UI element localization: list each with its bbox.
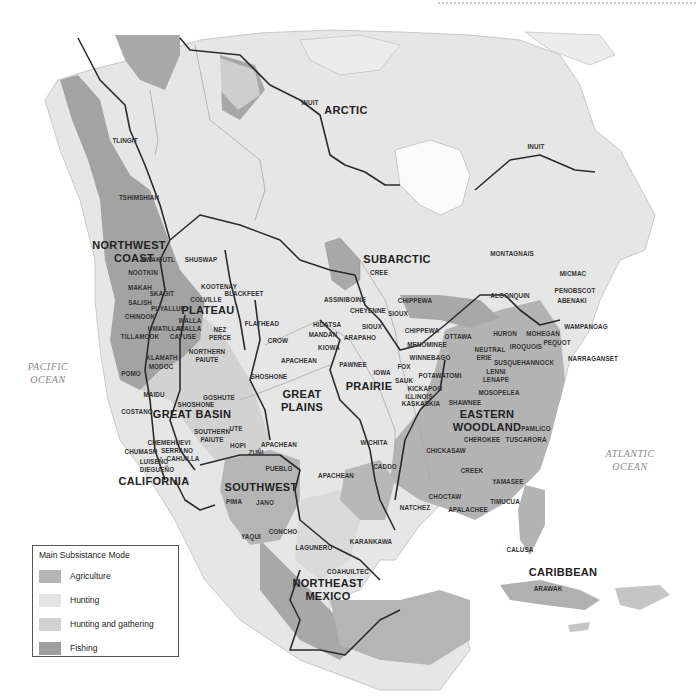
tribe-label: SHOSHONE xyxy=(178,402,215,408)
tribe-label: CHUMASH xyxy=(125,449,158,455)
tribe-label: CONCHO xyxy=(269,529,298,535)
tribe-label: CREEK xyxy=(461,468,484,474)
tribe-label: DIEGUEÑO xyxy=(140,467,174,473)
tribe-label: KWAKIUTL xyxy=(141,257,175,263)
tribe-label: COSTANO xyxy=(121,409,153,415)
tribe-label: YAQUI xyxy=(241,534,261,540)
legend-label: Fishing xyxy=(70,643,97,653)
tribe-label: HOPI xyxy=(230,443,246,449)
tribe-label: TSHIMSHIAN xyxy=(119,195,159,201)
tribe-label: WALLA xyxy=(179,318,202,324)
tribe-label: NORTHERN xyxy=(189,349,225,355)
tribe-label: POMO xyxy=(121,371,141,377)
tribe-label: PUYALLUP xyxy=(151,306,185,312)
tribe-label: CHEYENNE xyxy=(350,308,386,314)
tribe-label: SHUSWAP xyxy=(185,257,218,263)
tribe-label: ASSINIBOINE xyxy=(324,297,366,303)
legend-item-hunting: Hunting xyxy=(39,588,172,612)
tribe-label: SUSQUEHANNOCK xyxy=(494,360,554,366)
tribe-label: CAYUSE xyxy=(170,334,196,340)
eastern-woodland-line2: WOODLAND xyxy=(453,421,521,434)
region-subarctic: SUBARCTIC xyxy=(363,253,430,266)
tribe-label: MONTAGNAIS xyxy=(490,251,534,257)
tribe-label: NOOTKIN xyxy=(128,270,158,276)
tribe-label: LUISEÑO xyxy=(140,459,169,465)
swatch-fishing xyxy=(39,642,61,655)
tribe-label: LENNI xyxy=(486,369,505,375)
tribe-label: WALLA xyxy=(179,326,202,332)
pacific-ocean-label: PACIFIC OCEAN xyxy=(28,360,69,386)
tribe-label: UTE xyxy=(230,426,243,432)
tribe-label: SERRANO xyxy=(161,448,193,454)
tribe-label: CAHUILLA xyxy=(167,456,200,462)
tribe-label: KASKASKIA xyxy=(402,401,440,407)
tribe-label: PENOBSCOT xyxy=(555,288,596,294)
tribe-label: ARAPAHO xyxy=(344,335,376,341)
tribe-label: SALISH xyxy=(128,300,152,306)
tribe-label: TILLAMOOK xyxy=(121,334,159,340)
swatch-agriculture xyxy=(39,570,61,583)
tribe-label: POTAWATOMI xyxy=(419,373,462,379)
pacific-label-line1: PACIFIC xyxy=(28,360,69,373)
legend-item-agriculture: Agriculture xyxy=(39,564,172,588)
tribe-label: LENAPE xyxy=(483,377,509,383)
legend-label: Agriculture xyxy=(70,571,111,581)
tribe-label: SIOUX xyxy=(388,311,408,317)
tribe-label: MAKAH xyxy=(128,285,152,291)
map-legend: Main Subsistance Mode Agriculture Huntin… xyxy=(32,545,179,657)
tribe-label: ALGONQUIN xyxy=(490,293,529,299)
region-northeast-mexico: NORTHEAST MEXICO xyxy=(292,577,363,602)
tribe-label: IOWA xyxy=(373,370,390,376)
tribe-label: APACHEAN xyxy=(281,358,317,364)
tribe-label: SKAGIT xyxy=(150,291,174,297)
tribe-label: WICHITA xyxy=(360,440,387,446)
tribe-label: ERIE xyxy=(476,355,491,361)
tribe-label: YAMASEE xyxy=(492,479,523,485)
tribe-label: INUIT xyxy=(302,100,319,106)
tribe-label: KIOWA xyxy=(318,345,340,351)
tribe-label: KARANKAWA xyxy=(350,539,393,545)
tribe-label: CHICKASAW xyxy=(426,448,466,454)
ne-mexico-line1: NORTHEAST xyxy=(292,577,363,590)
tribe-label: INUIT xyxy=(528,144,545,150)
area-caribbean-hispaniola xyxy=(615,585,670,610)
tribe-label: SOUTHERN xyxy=(194,429,230,435)
swatch-hunting xyxy=(39,594,61,607)
tribe-label: WAMPANOAG xyxy=(564,324,607,330)
tribe-label: PAMLICO xyxy=(521,426,550,432)
tribe-label: CROW xyxy=(268,338,288,344)
tribe-label: TIMUCUA xyxy=(490,499,520,505)
legend-label: Hunting and gathering xyxy=(70,619,154,629)
tribe-label: WINNEBAGO xyxy=(410,355,451,361)
tribe-label: APALACHEE xyxy=(448,507,488,513)
tribe-label: SAUK xyxy=(395,378,413,384)
tribe-label: IROQUOIS xyxy=(510,344,542,350)
tribe-label: CREE xyxy=(370,270,388,276)
area-florida xyxy=(518,485,545,555)
tribe-label: HURON xyxy=(493,331,517,337)
legend-title: Main Subsistance Mode xyxy=(39,550,172,560)
tribe-label: CHEMEHUEVI xyxy=(148,440,191,446)
atlantic-ocean-label: ATLANTIC OCEAN xyxy=(605,447,654,473)
tribe-label: CADDO xyxy=(373,464,397,470)
region-caribbean: CARIBBEAN xyxy=(529,566,598,579)
tribe-label: SHAWNEE xyxy=(449,400,482,406)
tribe-label: LAGUNERO xyxy=(296,545,333,551)
tribe-label: BLACKFEET xyxy=(224,291,263,297)
tribe-label: PERCE xyxy=(209,335,231,341)
tribe-label: NARRAGANSET xyxy=(568,356,618,362)
tribe-label: PEQUOT xyxy=(543,340,570,346)
tribe-label: FOX xyxy=(397,364,410,370)
tribe-label: ZUÑI xyxy=(248,450,263,456)
tribe-label: NEUTRAL xyxy=(475,347,506,353)
tribe-label: CHIPPEWA xyxy=(405,328,439,334)
tribe-label: PAWNEE xyxy=(339,362,366,368)
legend-item-hunting-gathering: Hunting and gathering xyxy=(39,612,172,636)
tribe-label: APACHEAN xyxy=(261,442,297,448)
tribe-label: TUSCARORA xyxy=(505,437,546,443)
great-plains-line1: GREAT xyxy=(281,388,323,401)
tribe-label: PUEBLO xyxy=(266,466,293,472)
tribe-label: COLVILLE xyxy=(190,297,221,303)
tribe-label: OTTAWA xyxy=(444,334,471,340)
tribe-label: MAIDU xyxy=(143,392,164,398)
